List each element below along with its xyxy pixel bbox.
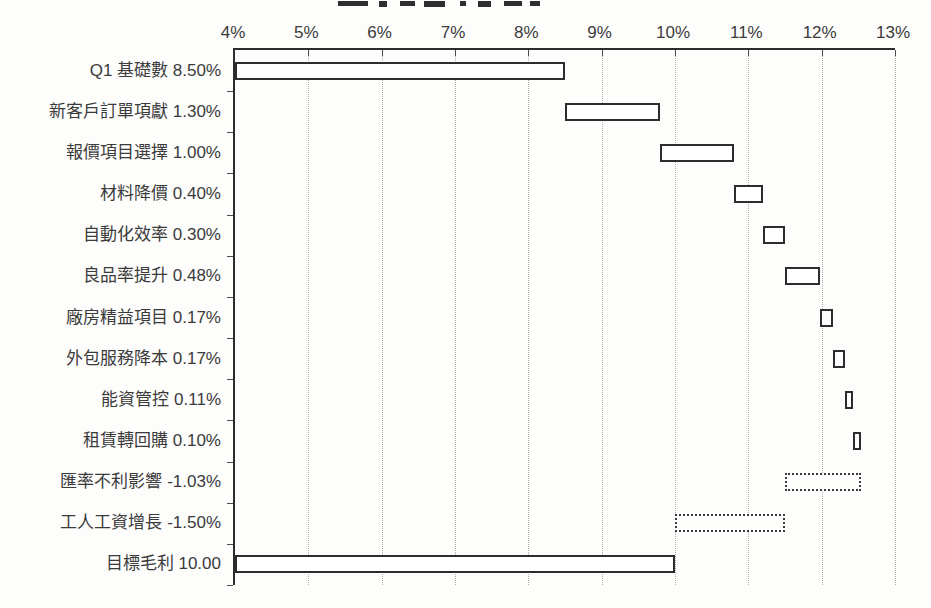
- x-axis-tick-mark: [822, 50, 823, 56]
- y-axis-tick-mark: [227, 544, 233, 545]
- waterfall-bar-11: [785, 473, 861, 491]
- category-label-6: 良品率提升 0.48%: [0, 265, 221, 286]
- plot-area: [233, 48, 895, 585]
- category-label-4: 材料降價 0.40%: [0, 183, 221, 204]
- category-label-8: 外包服務降本 0.17%: [0, 348, 221, 369]
- waterfall-bar-10: [853, 432, 860, 450]
- y-axis-tick-mark: [227, 297, 233, 298]
- category-label-12: 工人工資增長 -1.50%: [0, 512, 221, 533]
- gridline: [455, 50, 456, 585]
- y-axis-tick-mark: [227, 91, 233, 92]
- category-label-2: 新客戶訂單項獻 1.30%: [0, 101, 221, 122]
- x-axis-tick-label: 10%: [656, 22, 690, 44]
- clipped-title-glyph-fragment: [338, 1, 368, 6]
- category-label-10: 租賃轉回購 0.10%: [0, 430, 221, 451]
- x-axis-tick-label: 4%: [221, 22, 246, 44]
- x-axis-tick-label: 13%: [876, 22, 910, 44]
- clipped-title-glyph-fragment: [504, 1, 522, 6]
- x-axis-tick-mark: [455, 50, 456, 56]
- gridline: [602, 50, 603, 585]
- gridline: [528, 50, 529, 585]
- y-axis-tick-mark: [227, 503, 233, 504]
- category-label-11: 匯率不利影響 -1.03%: [0, 471, 221, 492]
- y-axis-tick-mark: [227, 132, 233, 133]
- clipped-title-glyph-fragment: [460, 1, 466, 6]
- x-axis-tick-label: 11%: [730, 22, 763, 44]
- clipped-title-glyph-fragment: [530, 1, 540, 6]
- category-label-9: 能資管控 0.11%: [0, 389, 221, 410]
- clipped-title-glyph-fragment: [424, 1, 445, 7]
- y-axis-tick-mark: [227, 338, 233, 339]
- x-axis-tick-mark: [382, 50, 383, 56]
- gridline: [382, 50, 383, 585]
- gridline: [675, 50, 676, 585]
- x-axis-tick-mark: [895, 50, 896, 56]
- category-label-13: 目標毛利 10.00: [0, 553, 221, 574]
- x-axis-tick-mark: [748, 50, 749, 56]
- gridline: [895, 50, 896, 585]
- waterfall-bar-1: [235, 62, 565, 80]
- category-label-1: Q1 基礎數 8.50%: [0, 60, 221, 81]
- waterfall-bar-2: [565, 103, 660, 121]
- waterfall-bar-9: [845, 391, 853, 409]
- x-axis-tick-label: 8%: [514, 22, 539, 44]
- x-axis-tick-label: 7%: [441, 22, 466, 44]
- x-axis-tick-label: 6%: [367, 22, 392, 44]
- waterfall-bar-6: [785, 267, 820, 285]
- x-axis-tick-label: 5%: [294, 22, 319, 44]
- category-label-5: 自動化效率 0.30%: [0, 224, 221, 245]
- waterfall-bar-4: [734, 185, 763, 203]
- y-axis-tick-mark: [227, 585, 233, 586]
- gridline: [748, 50, 749, 585]
- y-axis-tick-mark: [227, 173, 233, 174]
- category-label-7: 廠房精益項目 0.17%: [0, 307, 221, 328]
- waterfall-bar-12: [675, 514, 785, 532]
- x-axis-tick-mark: [308, 50, 309, 56]
- y-axis-tick-mark: [227, 379, 233, 380]
- gridline: [308, 50, 309, 585]
- x-axis-tick-mark: [602, 50, 603, 56]
- waterfall-bar-7: [820, 309, 832, 327]
- x-axis-tick-label: 12%: [803, 22, 837, 44]
- waterfall-chart: 4%5%6%7%8%9%10%11%12%13% Q1 基礎數 8.50%新客戶…: [0, 0, 931, 608]
- x-axis-tick-label: 9%: [587, 22, 612, 44]
- y-axis-tick-mark: [227, 462, 233, 463]
- clipped-title-glyph-fragment: [400, 1, 415, 6]
- clipped-title-glyph-fragment: [478, 1, 491, 7]
- waterfall-bar-5: [763, 226, 785, 244]
- x-axis-labels: 4%5%6%7%8%9%10%11%12%13%: [233, 22, 893, 44]
- y-axis-tick-mark: [227, 215, 233, 216]
- y-axis-tick-mark: [227, 256, 233, 257]
- x-axis-tick-mark: [675, 50, 676, 56]
- category-label-3: 報價項目選擇 1.00%: [0, 142, 221, 163]
- waterfall-bar-8: [833, 350, 845, 368]
- y-axis-tick-mark: [227, 420, 233, 421]
- clipped-chart-title: [338, 0, 578, 8]
- waterfall-bar-3: [660, 144, 733, 162]
- clipped-title-glyph-fragment: [379, 1, 387, 7]
- waterfall-bar-13: [235, 555, 675, 573]
- x-axis-tick-mark: [528, 50, 529, 56]
- category-labels: Q1 基礎數 8.50%新客戶訂單項獻 1.30%報價項目選擇 1.00%材料降…: [0, 50, 226, 585]
